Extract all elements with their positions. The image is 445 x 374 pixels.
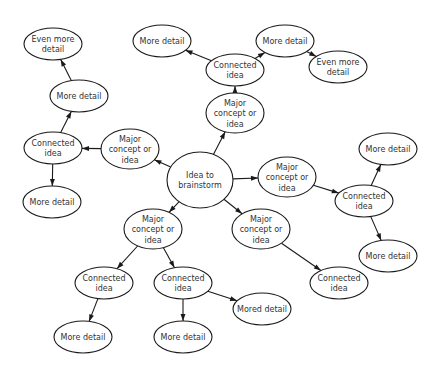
- node-label: brainstorm: [178, 181, 222, 190]
- connector-d_top_r-to-e_top_r: [307, 52, 317, 57]
- node-label: idea: [252, 236, 269, 245]
- node-label: idea: [278, 184, 295, 193]
- node-connected-c-left[interactable]: Connectedidea: [24, 132, 82, 164]
- node-label: Major: [224, 99, 247, 108]
- node-label: Mored detail: [237, 305, 287, 314]
- node-label: idea: [144, 236, 161, 245]
- node-ellipse[interactable]: [75, 267, 133, 299]
- node-label: concept or: [132, 225, 175, 234]
- node-ellipse[interactable]: [154, 267, 212, 299]
- node-label: idea: [226, 71, 243, 80]
- node-detail-d-bl2-side[interactable]: Mored detail: [233, 293, 291, 325]
- node-label: More detail: [140, 37, 185, 46]
- node-detail-d-left-up[interactable]: More detail: [50, 80, 108, 112]
- node-ellipse[interactable]: [206, 54, 264, 86]
- node-label: More detail: [161, 333, 206, 342]
- node-detail-d-bl2[interactable]: More detail: [154, 321, 212, 353]
- node-label: idea: [44, 149, 61, 158]
- connector-c_bl2-to-d_bl2_side: [208, 291, 237, 301]
- node-ellipse[interactable]: [335, 185, 393, 217]
- node-detail-d-top-r[interactable]: More detail: [256, 25, 314, 57]
- node-detail-d-top-l[interactable]: More detail: [133, 25, 191, 57]
- connector-root-to-m_left: [154, 160, 170, 167]
- node-label: More detail: [30, 198, 75, 207]
- node-label: Even more: [31, 35, 74, 44]
- connector-d_left_up-to-e_left: [61, 59, 72, 80]
- node-label: Major: [119, 135, 142, 144]
- connector-c_top-to-d_top_l: [186, 50, 212, 60]
- connector-c_right-to-d_right_up: [371, 165, 381, 186]
- node-detail-d-right-down[interactable]: More detail: [359, 240, 417, 272]
- connector-root-to-m_bl: [169, 202, 179, 213]
- node-detail-d-bl1[interactable]: More detail: [54, 321, 112, 353]
- node-major-m-right[interactable]: Majorconcept oridea: [258, 157, 316, 197]
- node-label: Connected: [317, 274, 360, 283]
- node-label: Major: [276, 163, 299, 172]
- node-label: concept or: [109, 145, 152, 154]
- node-major-m-left[interactable]: Majorconcept oridea: [101, 129, 159, 169]
- node-ellipse[interactable]: [310, 267, 368, 299]
- node-label: idea: [355, 202, 372, 211]
- node-label: idea: [330, 284, 347, 293]
- node-label: Connected: [82, 274, 125, 283]
- node-label: Connected: [342, 192, 385, 201]
- node-detail-e-left[interactable]: Even moredetail: [24, 28, 82, 60]
- node-label: More detail: [57, 92, 102, 101]
- node-label: More detail: [366, 145, 411, 154]
- node-detail-d-right-up[interactable]: More detail: [359, 133, 417, 165]
- node-ellipse[interactable]: [309, 51, 367, 83]
- node-major-m-top[interactable]: Majorconcept oridea: [206, 93, 264, 133]
- node-label: Even more: [316, 58, 359, 67]
- node-label: More detail: [366, 252, 411, 261]
- node-ellipse[interactable]: [24, 132, 82, 164]
- node-detail-e-top-r[interactable]: Even moredetail: [309, 51, 367, 83]
- node-label: More detail: [61, 333, 106, 342]
- node-label: Connected: [31, 139, 74, 148]
- connector-m_bl-to-c_bl1: [117, 246, 138, 269]
- node-label: Connected: [161, 274, 204, 283]
- node-major-m-bl[interactable]: Majorconcept oridea: [124, 209, 182, 249]
- node-label: concept or: [266, 173, 309, 182]
- node-label: idea: [174, 284, 191, 293]
- node-label: idea: [95, 284, 112, 293]
- connector-c_left-to-d_left_up: [61, 111, 72, 132]
- mind-map-diagram: Idea tobrainstormMajorconcept orideaMajo…: [0, 0, 445, 374]
- node-connected-c-right[interactable]: Connectedidea: [335, 185, 393, 217]
- node-connected-c-br[interactable]: Connectedidea: [310, 267, 368, 299]
- node-label: Major: [142, 215, 165, 224]
- connector-c_right-to-d_right_down: [371, 217, 381, 241]
- node-connected-c-bl1[interactable]: Connectedidea: [75, 267, 133, 299]
- node-label: detail: [42, 45, 64, 54]
- node-ellipse[interactable]: [24, 28, 82, 60]
- node-label: concept or: [240, 225, 283, 234]
- node-label: detail: [327, 68, 349, 77]
- node-major-m-br[interactable]: Majorconcept oridea: [232, 209, 290, 249]
- node-label: idea: [226, 120, 243, 129]
- node-connected-c-top[interactable]: Connectedidea: [206, 54, 264, 86]
- node-label: Connected: [213, 61, 256, 70]
- node-label: More detail: [263, 37, 308, 46]
- node-label: idea: [121, 156, 138, 165]
- node-ellipse[interactable]: [167, 152, 233, 208]
- connector-root-to-m_top: [213, 132, 225, 155]
- connector-root-to-m_right: [233, 178, 258, 179]
- node-label: Major: [250, 215, 273, 224]
- node-label: Idea to: [186, 171, 214, 180]
- nodes-layer: Idea tobrainstormMajorconcept orideaMajo…: [23, 25, 417, 353]
- connector-c_bl1-to-d_bl1: [89, 299, 98, 322]
- node-connected-c-bl2[interactable]: Connectedidea: [154, 267, 212, 299]
- node-label: concept or: [214, 109, 257, 118]
- node-detail-d-left-down[interactable]: More detail: [23, 186, 81, 218]
- node-root-root[interactable]: Idea tobrainstorm: [167, 152, 233, 208]
- connector-c_top-to-d_top_r: [255, 53, 265, 59]
- connector-m_br-to-c_br: [282, 243, 321, 270]
- connector-root-to-m_br: [224, 199, 242, 214]
- connector-m_right-to-c_right: [313, 185, 338, 193]
- connector-m_bl-to-c_bl2: [163, 248, 174, 268]
